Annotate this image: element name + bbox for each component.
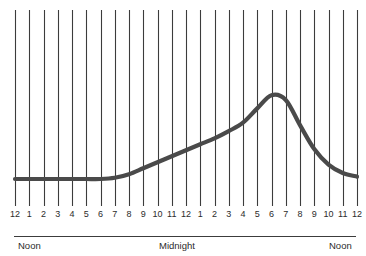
tick-label-24: 12: [347, 209, 366, 219]
period-label-midnight-1: Midnight: [159, 240, 195, 251]
period-label-noon-0: Noon: [18, 240, 41, 251]
circadian-rhythm-chart: 12123456789101112123456789101112 NoonMid…: [0, 0, 366, 256]
period-label-noon-2: Noon: [329, 240, 352, 251]
gridlines-group: [16, 10, 358, 206]
